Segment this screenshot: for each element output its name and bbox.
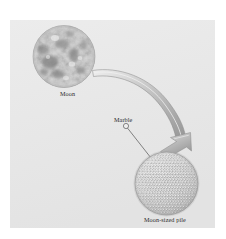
pile-marble bbox=[175, 192, 177, 194]
pile-marble bbox=[155, 173, 157, 175]
pile-marble bbox=[170, 157, 172, 159]
pile-marble bbox=[157, 189, 159, 191]
pile-marble bbox=[139, 195, 141, 197]
pile-marble bbox=[147, 162, 149, 164]
pile-marble bbox=[170, 203, 172, 205]
pile-marble bbox=[164, 206, 166, 208]
pile-marble bbox=[181, 159, 183, 161]
pile-marble bbox=[138, 189, 140, 191]
pile-marble bbox=[156, 200, 158, 202]
pile-marble bbox=[189, 184, 191, 186]
moon-label: Moon bbox=[60, 91, 75, 97]
pile-marble bbox=[161, 162, 163, 164]
pile-marble bbox=[193, 173, 195, 175]
pile-marble bbox=[163, 165, 165, 167]
pile-marble bbox=[147, 176, 149, 178]
pile-marble bbox=[146, 170, 148, 172]
pile-marble bbox=[172, 176, 174, 178]
pile-marble bbox=[193, 187, 195, 189]
pile-marble bbox=[159, 189, 161, 191]
pile-marble bbox=[163, 187, 165, 189]
pile-marble bbox=[146, 165, 148, 167]
pile-marble bbox=[181, 200, 183, 202]
pile-marble bbox=[157, 173, 159, 175]
marble-circle-icon bbox=[123, 123, 128, 128]
pile-marble bbox=[181, 192, 183, 194]
pile-marble bbox=[166, 176, 168, 178]
pile-marble bbox=[142, 184, 144, 186]
pile-marble bbox=[161, 200, 163, 202]
pile-marble bbox=[191, 187, 193, 189]
pile-marble bbox=[145, 200, 147, 202]
pile-marble bbox=[155, 209, 157, 211]
pile-marble bbox=[159, 192, 161, 194]
pile-marble bbox=[154, 189, 156, 191]
pile-marble bbox=[172, 195, 174, 197]
pile-marble bbox=[178, 198, 180, 200]
pile-marble bbox=[185, 187, 187, 189]
pile-marble bbox=[151, 203, 153, 205]
pile-marble bbox=[177, 176, 179, 178]
pile-marble bbox=[177, 209, 179, 211]
pile-marble bbox=[173, 167, 175, 169]
figure-container: Moon Marble Moon-sized pile bbox=[0, 0, 226, 239]
pile-marble bbox=[168, 154, 170, 156]
pile-marble bbox=[180, 176, 182, 178]
pile-marble bbox=[153, 200, 155, 202]
pile-marble bbox=[183, 200, 185, 202]
pile-marble bbox=[179, 159, 181, 161]
pile-marble bbox=[192, 178, 194, 180]
pile-marble bbox=[147, 198, 149, 200]
pile-marble bbox=[167, 198, 169, 200]
pile-marble bbox=[179, 187, 181, 189]
pile-marble bbox=[177, 162, 179, 164]
pile-marble bbox=[153, 157, 155, 159]
pile-marble bbox=[162, 167, 164, 169]
pile-marble bbox=[149, 170, 151, 172]
pile-marble bbox=[140, 192, 142, 194]
pile-marble bbox=[146, 167, 148, 169]
pile-marble bbox=[174, 173, 176, 175]
pile-marble bbox=[149, 159, 151, 161]
pile-marble bbox=[168, 173, 170, 175]
pile-marble bbox=[144, 187, 146, 189]
pile-marble bbox=[164, 178, 166, 180]
pile-marble bbox=[148, 200, 150, 202]
pile-marble bbox=[150, 184, 152, 186]
pile-marble bbox=[165, 181, 167, 183]
pile-marble bbox=[187, 181, 189, 183]
pile-marble bbox=[160, 165, 162, 167]
pile-marble bbox=[178, 157, 180, 159]
pile-marble bbox=[189, 178, 191, 180]
pile-marble bbox=[153, 178, 155, 180]
pile-marble bbox=[151, 200, 153, 202]
pile-marble bbox=[173, 159, 175, 161]
pile-marble bbox=[174, 187, 176, 189]
pile-marble bbox=[145, 198, 147, 200]
pile-marble bbox=[194, 184, 196, 186]
pile-marble bbox=[171, 209, 173, 211]
pile-marble bbox=[165, 189, 167, 191]
pile-marble bbox=[164, 211, 166, 213]
pile-marble bbox=[144, 176, 146, 178]
pile-marble bbox=[160, 170, 162, 172]
pile-marble bbox=[186, 178, 188, 180]
pile-marble bbox=[192, 189, 194, 191]
pile-marble bbox=[184, 167, 186, 169]
pile-marble bbox=[167, 184, 169, 186]
pile-marble bbox=[189, 198, 191, 200]
pile-marble bbox=[186, 198, 188, 200]
pile-marble bbox=[183, 206, 185, 208]
pile-marble bbox=[155, 187, 157, 189]
pile-marble bbox=[152, 187, 154, 189]
pile-marble bbox=[179, 203, 181, 205]
pile-marble bbox=[154, 203, 156, 205]
pile-marble bbox=[171, 181, 173, 183]
pile-marble bbox=[190, 168, 192, 170]
pile-marble bbox=[172, 200, 174, 202]
pile-marble bbox=[161, 184, 163, 186]
pile-marble bbox=[176, 203, 178, 205]
pile-marble bbox=[179, 189, 181, 191]
pile-marble bbox=[149, 173, 151, 175]
pile-marble bbox=[176, 167, 178, 169]
